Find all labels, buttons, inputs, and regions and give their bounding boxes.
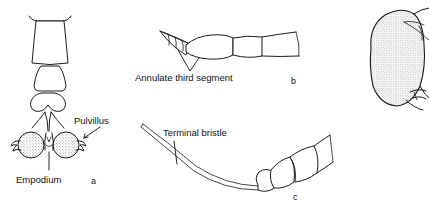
antennal-segment-4 — [233, 36, 262, 57]
empodium-right-edge — [52, 133, 53, 150]
tarsal-segment-3 — [31, 93, 66, 111]
proboscis-mid — [413, 97, 426, 99]
panel-letter-c: c — [293, 192, 298, 202]
panel-letter-b: b — [291, 76, 296, 86]
tarsus-top-cut-edge — [29, 16, 71, 21]
figure-plate: Pulvillus Empodium a Annu — [0, 0, 429, 210]
panel-a-tarsus-diagram: Pulvillus Empodium a — [11, 16, 109, 186]
head-vertex-outline — [414, 8, 429, 14]
panel-letter-a: a — [91, 176, 96, 186]
terminal-bristle-label: Terminal bristle — [163, 127, 227, 138]
pulvillus-right-pad — [53, 132, 79, 158]
panel-c-segment-cut-lower — [317, 162, 333, 173]
head-gena-outline — [420, 86, 429, 98]
pretarsus-right-arm — [51, 112, 64, 128]
annulation-ring-2 — [175, 37, 176, 48]
terminal-bristle-tip — [141, 124, 143, 127]
panel-c-antennal-segment-1 — [270, 157, 294, 188]
terminal-bristle-leader-line — [174, 141, 177, 164]
pulvillus-leader-line — [84, 127, 100, 138]
pretarsus-median-right — [49, 112, 51, 131]
empodium-base — [46, 145, 52, 147]
panel-c-segment-cut-edge — [330, 135, 333, 162]
pretarsus-median-left — [45, 112, 48, 131]
antennal-segment-3 — [186, 35, 233, 59]
compound-eye — [370, 10, 424, 106]
antennal-segment-5-tip — [296, 32, 299, 56]
panel-c-segment-cut-upper — [314, 135, 330, 146]
annulation-ring-3 — [182, 40, 183, 51]
panel-b-antenna-annulate: Annulate third segment b — [135, 31, 299, 86]
annulation-ring-1 — [168, 34, 169, 45]
pulvillus-label: Pulvillus — [74, 115, 109, 126]
tarsal-segment-2 — [34, 66, 66, 91]
annulate-third-segment-label: Annulate third segment — [135, 72, 233, 83]
pulvillus-left-pad — [18, 132, 44, 158]
panel-c-antenna-terminal-bristle: Terminal bristle c — [141, 124, 333, 202]
empodium-inner-notch — [47, 137, 51, 142]
empodium-label: Empodium — [16, 174, 61, 185]
empodium-left-edge — [45, 133, 46, 150]
antennal-segment-5 — [262, 32, 299, 57]
tarsal-segment-1 — [32, 21, 68, 65]
pretarsus-left-arm — [32, 112, 45, 128]
panel-d-fly-head-partial — [370, 8, 429, 110]
